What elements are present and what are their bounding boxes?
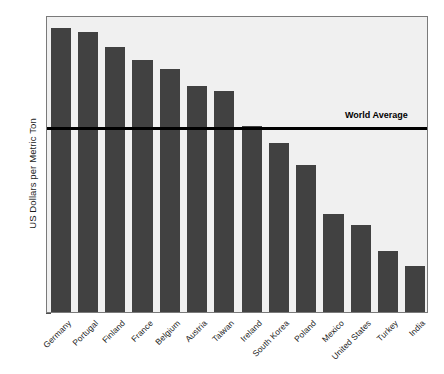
bar-france: [132, 60, 152, 312]
bar-turkey: [378, 251, 398, 312]
world-average-label: World Average: [345, 110, 408, 120]
y-tick-mark-0: [46, 313, 51, 314]
bar-india: [405, 266, 425, 312]
y-axis-title: US Dollars per Metric Ton: [27, 84, 38, 264]
bar-poland: [296, 165, 316, 312]
plot-area: World Average: [46, 16, 428, 313]
bar-south-korea: [269, 143, 289, 312]
bar-mexico: [323, 214, 343, 312]
plot-inner: World Average: [47, 17, 427, 312]
bar-germany: [51, 28, 71, 312]
x-label-germany: Germany: [0, 318, 73, 374]
bar-taiwan: [214, 91, 234, 312]
bar-ireland: [242, 126, 262, 312]
world-average-line: [47, 127, 427, 130]
bar-finland: [105, 47, 125, 312]
bar-austria: [187, 86, 207, 312]
bar-united-states: [351, 225, 371, 312]
bar-chart: US Dollars per Metric Ton 02040608010012…: [0, 0, 444, 374]
bar-portugal: [78, 32, 98, 312]
bar-belgium: [160, 69, 180, 312]
